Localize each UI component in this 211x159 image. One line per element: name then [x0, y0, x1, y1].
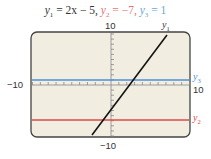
- y3-series-label: y3: [193, 71, 201, 84]
- y1-label-sub: 1: [166, 25, 169, 32]
- y-max-label: 10: [105, 20, 116, 31]
- y2-label-sub: 2: [197, 118, 200, 125]
- y3-label-sub: 3: [197, 77, 200, 84]
- y1-series-label: y1: [162, 19, 170, 32]
- y2-series-label: y2: [193, 112, 201, 125]
- x-max-label: 10: [193, 84, 204, 95]
- x-min-label: −10: [7, 79, 23, 90]
- y-min-label: −10: [100, 140, 116, 151]
